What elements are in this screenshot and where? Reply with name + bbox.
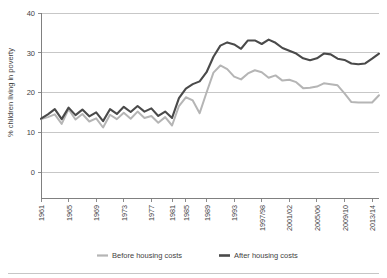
x-tick-label: 2013/14 <box>368 205 377 231</box>
legend-label: After housing costs <box>234 251 298 260</box>
legend-label: Before housing costs <box>112 251 182 260</box>
poverty-line-chart: 010203040 196119651969197319771981198519… <box>0 0 387 278</box>
x-tick-label: 1961 <box>37 205 46 221</box>
x-tick-label: 1985 <box>182 205 191 221</box>
y-axis-title: % children living in poverty <box>6 48 15 137</box>
y-tick-label: 20 <box>27 88 35 97</box>
x-tick-label: 1981 <box>168 205 177 221</box>
x-tick-label: 2005/06 <box>313 205 322 231</box>
x-tick-label: 1973 <box>120 205 129 221</box>
x-axis-ticks: 1961196519691973197719811985198919931997… <box>37 198 377 231</box>
y-axis-ticks: 010203040 <box>27 9 41 177</box>
y-tick-label: 30 <box>27 49 35 58</box>
y-tick-label: 10 <box>27 128 35 137</box>
y-tick-label: 40 <box>27 9 35 18</box>
chart-canvas: 010203040 196119651969197319771981198519… <box>0 0 387 278</box>
x-tick-label: 1993 <box>230 205 239 221</box>
y-tick-label: 0 <box>31 168 35 177</box>
x-tick-label: 2001/02 <box>285 205 294 231</box>
chart-legend: Before housing costsAfter housing costs <box>97 251 298 260</box>
series-line-before-housing-costs <box>41 65 379 127</box>
x-tick-label: 1977 <box>147 205 156 221</box>
x-tick-label: 1989 <box>203 205 212 221</box>
x-tick-label: 1969 <box>92 205 101 221</box>
x-tick-label: 1965 <box>65 205 74 221</box>
x-tick-label: 2009/10 <box>341 205 350 231</box>
x-tick-label: 1997/98 <box>258 205 267 231</box>
grid-lines <box>41 13 379 172</box>
